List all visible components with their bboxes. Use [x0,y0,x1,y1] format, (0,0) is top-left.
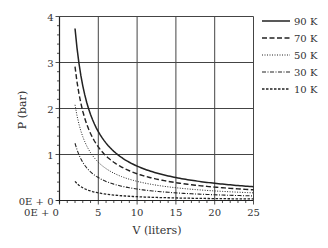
y-tick-label: 3 [47,58,53,69]
x-tick-label: 0E + 0 [24,207,59,218]
x-tick-label: 20 [208,207,221,218]
x-tick-label: 15 [170,207,183,218]
plot-curves [75,28,253,199]
x-tick-label: 10 [131,207,144,218]
y-tick-label: 4 [47,12,53,23]
curve-50k [75,105,253,193]
y-axis-label: P (bar) [16,91,29,129]
curve-70k [75,67,253,190]
legend-label: 10 K [294,84,318,95]
x-tick-label: 5 [95,207,101,218]
y-tick-label: 0E + 0 [19,196,54,207]
pressure-volume-chart: 0E + 05101520250E + 01234 P (bar) V (lit… [0,0,328,248]
curve-90k [75,28,253,186]
x-axis-label: V (liters) [132,224,182,237]
curve-30k [75,143,253,196]
plot-axes [56,17,254,205]
legend: 90 K70 K50 K30 K10 K [262,16,318,95]
legend-label: 30 K [294,67,318,78]
legend-label: 70 K [294,33,318,44]
x-tick-label: 25 [247,207,260,218]
y-tick-label: 2 [47,104,53,115]
legend-label: 50 K [294,50,318,61]
legend-label: 90 K [294,16,318,27]
tick-labels: 0E + 05101520250E + 01234 [19,12,260,218]
y-tick-label: 1 [47,150,53,161]
